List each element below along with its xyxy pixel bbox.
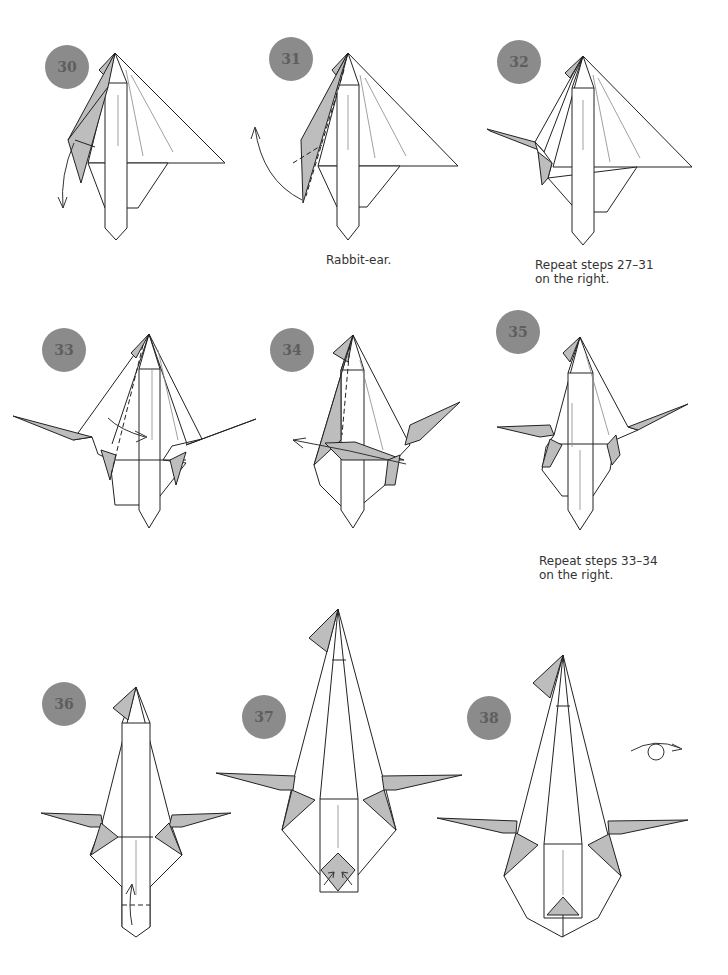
step-caption: Rabbit-ear. xyxy=(326,253,391,267)
step-caption: Repeat steps 27–31 on the right. xyxy=(535,258,654,286)
step-35: 35 Repeat steps 33–34 on the right. xyxy=(490,300,728,620)
step-30: 30 xyxy=(0,0,240,300)
step-number-badge: 33 xyxy=(42,328,86,372)
step-number-badge: 31 xyxy=(269,37,313,81)
step-31: 31 Rabbit-ear. xyxy=(240,0,480,300)
turn-over-icon xyxy=(631,743,682,760)
step-36: 36 xyxy=(0,660,240,975)
step-38-diagram xyxy=(430,620,728,960)
step-38: 38 xyxy=(430,620,728,960)
step-33: 33 xyxy=(0,300,270,600)
step-34: 34 xyxy=(270,300,490,600)
step-30-diagram xyxy=(0,0,240,300)
step-number-badge: 32 xyxy=(497,40,541,84)
step-33-diagram xyxy=(0,300,270,600)
step-number-badge: 37 xyxy=(242,695,286,739)
step-number-badge: 35 xyxy=(496,310,540,354)
step-caption: Repeat steps 33–34 on the right. xyxy=(539,554,658,582)
step-32: 32 Repeat steps 27–31 on the right. xyxy=(480,0,728,300)
step-number-badge: 36 xyxy=(42,682,86,726)
step-number-badge: 34 xyxy=(270,328,314,372)
step-number-badge: 38 xyxy=(467,696,511,740)
step-number-badge: 30 xyxy=(45,45,89,89)
step-36-diagram xyxy=(0,660,240,975)
